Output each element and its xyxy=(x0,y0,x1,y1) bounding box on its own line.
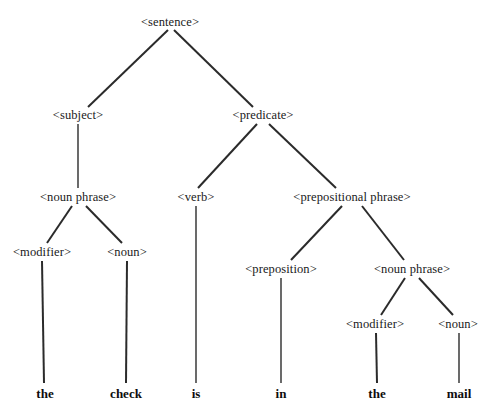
edge-prepphrase-nounphrase xyxy=(362,206,404,260)
leaf-check: check xyxy=(110,387,142,400)
edge-nounphrase-noun xyxy=(86,206,122,243)
leaf-the-2: the xyxy=(368,387,385,400)
node-noun-right: <noun> xyxy=(438,318,478,331)
node-prepositional-phrase: <prepositional phrase> xyxy=(293,191,410,204)
parse-tree-figure: <sentence> <subject> <predicate> <noun p… xyxy=(0,0,492,417)
edge-sentence-predicate xyxy=(174,30,253,107)
leaf-in: in xyxy=(276,387,287,400)
edge-predicate-prepphrase xyxy=(269,124,336,188)
node-preposition: <preposition> xyxy=(245,263,317,276)
node-subject: <subject> xyxy=(53,109,103,122)
leaf-mail: mail xyxy=(447,387,472,400)
edge-nounphrase2-modifier xyxy=(381,278,405,315)
leaf-is: is xyxy=(192,387,201,400)
node-verb: <verb> xyxy=(178,191,215,204)
node-predicate: <predicate> xyxy=(233,109,294,122)
node-modifier-left: <modifier> xyxy=(13,246,71,259)
node-noun-phrase-right: <noun phrase> xyxy=(374,263,450,276)
edge-prepphrase-preposition xyxy=(291,206,342,260)
tree-edges-layer xyxy=(0,0,492,417)
edge-predicate-verb xyxy=(198,124,257,188)
edge-noun-check xyxy=(126,261,127,383)
edge-nounphrase-modifier xyxy=(47,206,72,243)
node-sentence: <sentence> xyxy=(141,16,199,29)
leaf-the-1: the xyxy=(36,387,53,400)
edge-sentence-subject xyxy=(88,30,168,107)
node-modifier-right: <modifier> xyxy=(346,318,404,331)
node-noun-left: <noun> xyxy=(107,246,147,259)
edge-nounphrase2-noun xyxy=(419,278,453,315)
edge-modifier2-the-2 xyxy=(376,333,377,383)
edge-modifier-the-1 xyxy=(42,261,44,383)
node-noun-phrase-left: <noun phrase> xyxy=(40,191,116,204)
